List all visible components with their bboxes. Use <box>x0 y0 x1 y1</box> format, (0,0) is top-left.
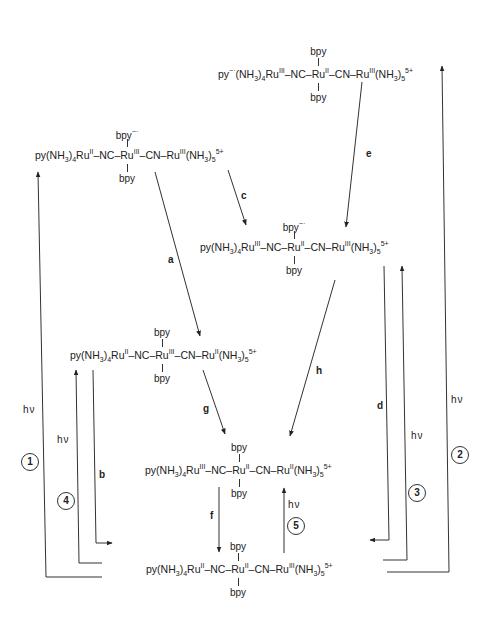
step-label-e: e <box>366 148 372 159</box>
center-ru: bpyRubpy <box>312 69 325 80</box>
arrow-layer <box>0 0 492 625</box>
bond <box>162 339 163 347</box>
bridge-cn: –CN– <box>249 563 276 575</box>
circled-step-2: 2 <box>451 446 469 464</box>
ammine: (NH <box>81 349 100 361</box>
ligand-bottom: bpy <box>119 174 135 184</box>
pyridine: py <box>70 349 81 361</box>
pyridine: py <box>200 241 211 253</box>
ru: Ru <box>187 563 200 575</box>
center-ru: bpyRubpy <box>231 564 244 575</box>
species-upper-left: py(NH3)4RuII–NC–bpy−·RubpyIII–CN–RuIII(N… <box>35 148 224 163</box>
arrow-a <box>155 172 200 336</box>
bridge-nc: –NC– <box>260 241 287 253</box>
ru: Ru <box>232 464 245 476</box>
charge: 5+ <box>405 67 413 74</box>
ligand-bottom: bpy <box>310 93 326 103</box>
ammine: (NH <box>351 241 370 253</box>
circled-step-5: 5 <box>287 517 305 535</box>
ligand-top: bpy <box>231 443 247 453</box>
species-ground: py(NH3)4RuII–NC–bpyRubpyII–CN–RuIII(NH3)… <box>146 562 333 577</box>
bond <box>238 578 239 586</box>
circled-step-1: 1 <box>21 453 39 471</box>
bridge-cn: –CN– <box>175 349 202 361</box>
step-label-f: f <box>210 510 213 521</box>
charge: 5+ <box>325 562 333 569</box>
ru: Ru <box>266 68 279 80</box>
ru: Ru <box>275 563 288 575</box>
bridge-cn: –CN– <box>305 241 332 253</box>
circled-step-3: 3 <box>408 484 426 502</box>
ammine: (NH <box>211 241 230 253</box>
subscript: 5 <box>320 471 324 478</box>
subscript: 5 <box>377 248 381 255</box>
bond <box>318 58 319 66</box>
center-ru: bpyRubpy <box>232 465 245 476</box>
ru: Ru <box>201 349 214 361</box>
charge: 5+ <box>216 148 224 155</box>
ligand-top: bpy <box>310 47 326 57</box>
ligand-bottom: bpy <box>231 489 247 499</box>
arrow-b <box>93 370 112 543</box>
bpy: bpy <box>283 222 299 233</box>
pyridine: py <box>146 563 157 575</box>
arrow-h <box>290 280 335 436</box>
bond <box>127 164 128 172</box>
ligand-top: bpy <box>230 542 246 552</box>
ru: Ru <box>312 68 325 80</box>
bridge-nc: –NC– <box>204 563 231 575</box>
circled-step-4: 4 <box>57 492 75 510</box>
arrow-4-hv <box>76 370 102 563</box>
ru: Ru <box>166 149 179 161</box>
bridge-nc: –NC– <box>205 464 232 476</box>
center-ru: bpy−·Rubpy <box>120 150 133 161</box>
step-label-d: d <box>377 400 383 411</box>
hv-label-5: hν <box>288 499 301 510</box>
bond <box>294 256 295 264</box>
bridge-nc: –NC– <box>93 149 120 161</box>
ligand-bottom: bpy <box>230 588 246 598</box>
ru: Ru <box>356 68 369 80</box>
pyridine: py <box>145 464 156 476</box>
ammine: (NH <box>186 149 205 161</box>
bond <box>238 553 239 561</box>
ru: Ru <box>331 241 344 253</box>
step-label-g: g <box>203 403 209 414</box>
ru: Ru <box>287 241 300 253</box>
pyridine: py <box>218 68 229 80</box>
ru: Ru <box>111 349 124 361</box>
hv-label-2: hν <box>451 394 464 405</box>
ru: Ru <box>120 149 133 161</box>
species-top: py−·(NH3)4RuIII–NC–bpyRubpyII–CN–RuIII(N… <box>218 67 413 82</box>
bridge-cn: –CN– <box>329 68 356 80</box>
radical-superscript: −· <box>299 220 305 227</box>
ligand-top: bpy <box>154 328 170 338</box>
subscript: 5 <box>401 75 405 82</box>
ru: Ru <box>241 241 254 253</box>
bond <box>294 231 295 239</box>
ru: Ru <box>155 349 168 361</box>
ligand-bottom: bpy <box>286 266 302 276</box>
ammine: (NH <box>157 563 176 575</box>
subscript: 5 <box>212 156 216 163</box>
bond <box>239 454 240 462</box>
step-label-b: b <box>99 469 105 480</box>
arrow-g <box>203 370 225 434</box>
arrow-e <box>346 82 362 227</box>
subscript: 5 <box>245 356 249 363</box>
ammine: (NH <box>375 68 394 80</box>
arrow-1-hv <box>38 172 102 577</box>
ammine: (NH <box>46 149 65 161</box>
ammine: (NH <box>295 563 314 575</box>
ru: Ru <box>186 464 199 476</box>
species-lower: py(NH3)4RuIII–NC–bpyRubpyII–CN–RuII(NH3)… <box>145 463 332 478</box>
pyridine: py <box>35 149 46 161</box>
ru: Ru <box>276 464 289 476</box>
step-label-c: c <box>241 190 247 201</box>
center-ru: bpy−·Rubpy <box>287 242 300 253</box>
step-label-h: h <box>316 365 322 376</box>
center-ru: bpyRubpy <box>155 350 168 361</box>
species-upper-right: py(NH3)4RuIII–NC–bpy−·RubpyII–CN–RuIII(N… <box>200 240 389 255</box>
hv-label-1: hν <box>23 404 36 415</box>
ammine: (NH <box>156 464 175 476</box>
